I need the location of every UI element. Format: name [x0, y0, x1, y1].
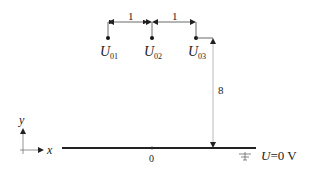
height-label: 8: [218, 84, 224, 96]
y-axis-label: y: [18, 113, 25, 127]
charge-u01: U 01: [100, 36, 118, 61]
svg-text:03: 03: [198, 52, 206, 61]
ground-icon: [239, 152, 251, 160]
plane-potential-label: U=0 V: [261, 148, 297, 163]
svg-text:02: 02: [154, 52, 162, 61]
x-axis-label: x: [46, 143, 53, 157]
charge-dot-icon: [106, 36, 110, 40]
spacing-label-2: 1: [172, 10, 178, 22]
origin-label: 0: [149, 153, 154, 164]
spacing-dimension-1: 1: [108, 10, 152, 36]
charge-dot-icon: [150, 36, 154, 40]
grounded-plane: 0: [62, 146, 256, 164]
axes-indicator: x y: [18, 113, 53, 157]
y-arrow-icon: [20, 128, 26, 134]
x-arrow-icon: [38, 147, 44, 153]
spacing-label-1: 1: [128, 10, 134, 22]
charge-u03: U 03: [188, 36, 206, 61]
svg-text:01: 01: [110, 52, 118, 61]
potential-diagram: 1 1 U 01 U 02 U 03 8 0: [0, 0, 311, 171]
spacing-dimension-2: 1: [152, 10, 196, 36]
charge-u02: U 02: [144, 36, 162, 61]
